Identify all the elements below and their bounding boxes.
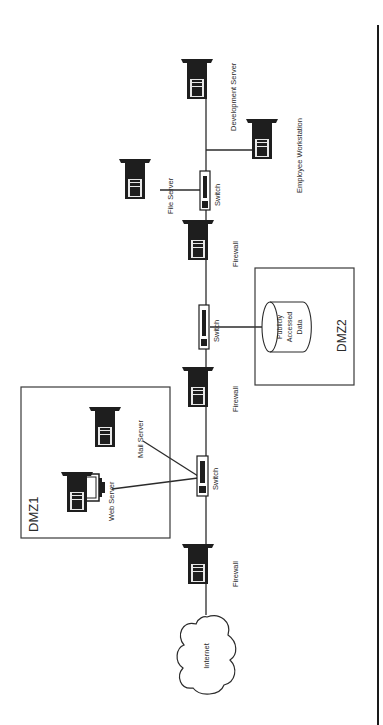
employee-workstation-label: Employee Workstation [295,118,304,193]
firewall-3-label: Firewall [231,241,240,267]
firewall-3: Firewall [182,220,240,267]
switch-1-icon [197,456,208,496]
firewall-3-icon [182,220,214,260]
file-server: File Server [119,159,175,214]
employee-workstation-icon [246,119,278,159]
public-data-label-2: Accessed [286,312,293,342]
employee-workstation: Employee Workstation [246,118,304,193]
switch-1-label: Switch [211,468,220,490]
firewall-1: Firewall [182,544,240,587]
mail-server: Mail Server [89,407,145,458]
internet-label: Internet [202,642,211,668]
switch-2-label: Switch [212,320,221,342]
firewall-2-icon [182,367,214,407]
file-server-icon [119,159,151,199]
switch-3: Switch [200,171,222,210]
firewall-2-label: Firewall [231,386,240,412]
mail-server-icon [89,407,121,447]
zone-dmz1-label: DMZ1 [26,497,41,532]
public-data-store: Publicly Accessed Data [262,302,311,352]
firewall-1-label: Firewall [231,561,240,587]
firewall-1-icon [182,544,214,584]
web-server-label: Web Server [107,481,116,521]
switch-2-icon [199,305,209,349]
firewall-2: Firewall [182,367,240,412]
mail-server-label: Mail Server [136,420,145,458]
switch-1: Switch [197,456,220,496]
switch-3-label: Switch [213,184,222,206]
web-server: Web Server [61,472,116,521]
development-server-icon [181,59,213,99]
internet-cloud: Internet [177,616,236,694]
network-diagram: DMZ1 DMZ2 Internet Firewall Switch Web S… [0,0,383,725]
public-data-label-3: Data [296,320,303,335]
file-server-label: File Server [166,177,175,214]
development-server-label: Development Server [229,62,238,131]
public-data-label-1: Publicly [276,314,284,339]
development-server: Development Server [181,59,238,131]
switch-3-icon [200,171,210,210]
zone-dmz2-label: DMZ2 [335,319,349,352]
